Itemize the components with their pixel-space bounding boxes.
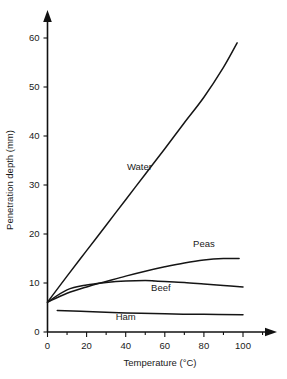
series-line-beef: [48, 281, 244, 303]
x-tick-label: 40: [120, 340, 131, 351]
y-tick-label: 30: [29, 179, 40, 190]
y-tick-label: 40: [29, 130, 40, 141]
penetration-depth-chart: 0102030405060 020406080100 Temperature (…: [0, 0, 287, 379]
x-axis-tick-labels: 020406080100: [45, 340, 251, 351]
y-axis-title: Penetration depth (mm): [4, 130, 15, 230]
y-tick-label: 60: [29, 32, 40, 43]
series-label-ham: Ham: [116, 311, 136, 322]
series-inline-labels: WaterPeasBeefHam: [116, 161, 215, 322]
series-line-water: [48, 43, 238, 302]
x-tick-label: 0: [45, 340, 50, 351]
y-tick-label: 0: [34, 326, 39, 337]
series-label-peas: Peas: [193, 238, 215, 249]
series-label-water: Water: [127, 161, 152, 172]
series-label-beef: Beef: [151, 282, 171, 293]
y-axis-arrowhead: [43, 10, 52, 22]
x-tick-label: 20: [81, 340, 92, 351]
y-tick-label: 20: [29, 228, 40, 239]
x-tick-label: 60: [160, 340, 171, 351]
x-tick-label: 80: [199, 340, 210, 351]
series-curves: [48, 43, 244, 315]
series-line-ham: [57, 310, 243, 314]
chart-container: 0102030405060 020406080100 Temperature (…: [0, 0, 287, 379]
x-axis-arrowhead: [265, 328, 277, 336]
y-tick-label: 10: [29, 277, 40, 288]
y-tick-label: 50: [29, 81, 40, 92]
x-tick-label: 100: [235, 340, 251, 351]
y-axis-tick-labels: 0102030405060: [29, 32, 40, 337]
x-axis-title: Temperature (°C): [124, 357, 197, 368]
